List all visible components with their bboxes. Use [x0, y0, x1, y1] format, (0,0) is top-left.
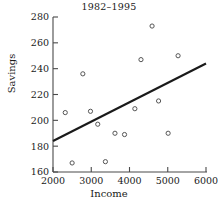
plot-canvas: 160180200220240260280 200030004000500060…: [0, 0, 218, 204]
regression-line: [53, 64, 206, 142]
data-point: [96, 122, 100, 126]
data-point: [70, 161, 74, 165]
y-tick-label: 240: [31, 63, 49, 74]
x-tick-label: 6000: [194, 175, 218, 186]
data-points: [63, 24, 180, 165]
data-point: [133, 107, 137, 111]
x-tick-label: 2000: [41, 175, 65, 186]
data-point: [81, 72, 85, 76]
trend-line: [53, 64, 206, 142]
data-point: [63, 110, 67, 114]
data-point: [139, 58, 143, 62]
x-tick-label: 5000: [156, 175, 180, 186]
y-tick-label: 180: [31, 141, 49, 152]
y-axis-ticks: 160180200220240260280: [31, 11, 58, 177]
data-point: [88, 109, 92, 113]
data-point: [166, 131, 170, 135]
x-tick-label: 3000: [79, 175, 103, 186]
y-tick-label: 260: [31, 37, 49, 48]
x-axis-ticks: 20003000400050006000: [41, 167, 218, 186]
axis-lines: [53, 17, 207, 172]
y-tick-label: 280: [31, 11, 49, 22]
data-point: [150, 24, 154, 28]
scatter-plot-figure: 1982–1995 Savings Income 160180200220240…: [0, 0, 218, 204]
data-point: [113, 131, 117, 135]
y-tick-label: 220: [31, 89, 49, 100]
data-point: [156, 99, 160, 103]
y-tick-label: 200: [31, 115, 49, 126]
data-point: [176, 54, 180, 58]
data-point: [103, 160, 107, 164]
data-point: [122, 132, 126, 136]
x-tick-label: 4000: [117, 175, 141, 186]
